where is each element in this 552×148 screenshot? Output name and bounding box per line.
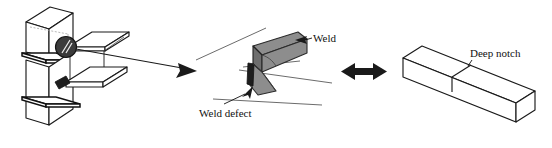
- weld-defect-region: [247, 63, 254, 86]
- detail-callout-arrow-head: [176, 63, 197, 78]
- panel-beam-column-connection: [22, 7, 197, 125]
- equivalence-arrow-shaft: [352, 68, 376, 75]
- weld-defect-leader-arrow-head: [242, 86, 253, 99]
- beam-bottom-flange-front-face: [66, 82, 103, 87]
- equivalence-arrow-head-right: [373, 63, 387, 80]
- weld-defect-label-group: Weld defect: [199, 86, 253, 119]
- weld-guide-line-lower: [213, 99, 322, 105]
- figure-root: Weld Weld defect: [0, 0, 552, 148]
- weld-label: Weld: [313, 32, 336, 44]
- weld-defect-leader-line: [224, 94, 245, 104]
- weld-defect-figure: Weld Weld defect: [0, 0, 552, 148]
- deep-notch-label: Deep notch: [470, 47, 521, 59]
- column-lower-front-face: [26, 60, 49, 125]
- deep-notch-label-group: Deep notch: [468, 47, 521, 66]
- equivalence-double-arrow: [341, 63, 387, 80]
- weld-defect-label: Weld defect: [199, 107, 252, 119]
- lower-flange-plate-front: [46, 104, 80, 107]
- equivalence-arrow-head-left: [341, 63, 355, 80]
- panel-weld-detail: Weld Weld defect: [196, 28, 336, 119]
- panel-notched-beam: Deep notch: [403, 46, 535, 122]
